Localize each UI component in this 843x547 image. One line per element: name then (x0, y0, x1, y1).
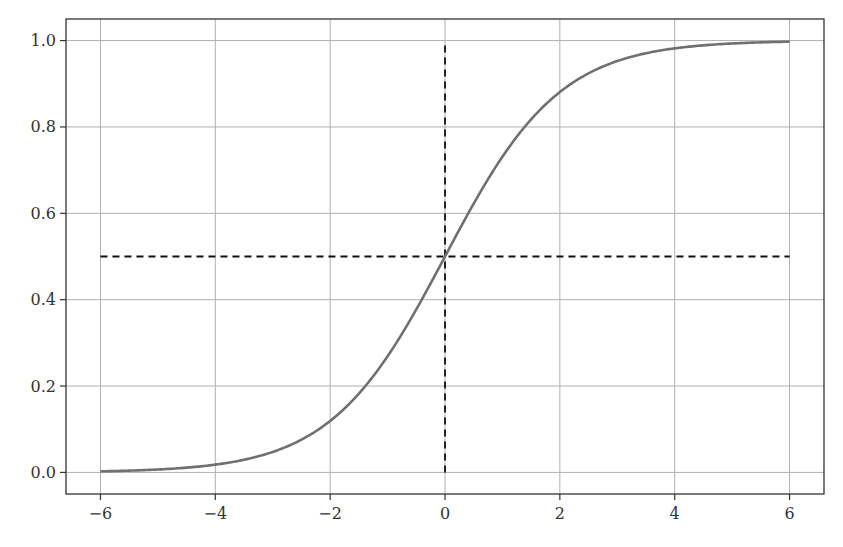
x-axis-ticks: −6−4−20246 (89, 494, 795, 523)
x-tick-label: −4 (204, 504, 228, 523)
sigmoid-chart: −6−4−20246 0.00.20.40.60.81.0 (0, 0, 843, 547)
y-tick-label: 1.0 (31, 31, 56, 50)
y-tick-label: 0.2 (31, 377, 56, 396)
y-tick-label: 0.0 (31, 463, 56, 482)
x-tick-label: 6 (784, 504, 794, 523)
x-tick-label: −2 (318, 504, 342, 523)
y-tick-label: 0.6 (31, 204, 56, 223)
y-tick-label: 0.4 (31, 290, 56, 309)
y-tick-label: 0.8 (31, 117, 56, 136)
x-tick-label: 0 (440, 504, 450, 523)
y-axis-ticks: 0.00.20.40.60.81.0 (31, 31, 66, 482)
x-tick-label: 4 (670, 504, 680, 523)
x-tick-label: −6 (89, 504, 113, 523)
x-tick-label: 2 (555, 504, 565, 523)
